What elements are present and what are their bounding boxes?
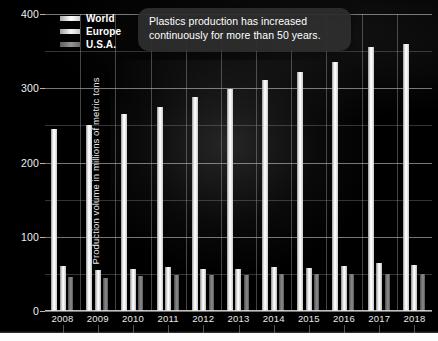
strip-tick [274,325,275,333]
y-tick-label: 100 [21,231,39,243]
bar-group [186,14,221,311]
bar-usa [349,274,354,311]
y-tick-mark [40,14,45,15]
x-tick-label: 2008 [52,313,74,324]
plot-area [45,14,432,311]
bar-europe [411,265,417,311]
chart-legend: WorldEuropeU.S.A. [60,13,121,50]
x-tick-label: 2018 [403,313,425,324]
bar-europe [95,270,101,311]
bar-group [80,14,115,311]
strip-tick [133,325,134,333]
bar-group [326,14,361,311]
bar-world [332,62,338,311]
bar-world [227,89,233,311]
x-tick-label: 2013 [228,313,250,324]
bar-europe [60,266,66,311]
bar-europe [165,267,171,311]
bar-world [403,44,409,311]
bar-usa [209,275,214,311]
bar-europe [271,267,277,311]
gridline-major [45,311,432,312]
legend-item-world[interactable]: World [60,13,121,24]
x-tick-label: 2014 [263,313,285,324]
annotation-text: Plastics production has increased contin… [149,15,341,43]
bar-europe [235,269,241,311]
bar-world [297,72,303,311]
bar-usa [68,277,73,311]
bar-usa [279,274,284,311]
y-tick-mark [40,311,45,312]
legend-label: Europe [86,26,121,37]
annotation-callout: Plastics production has increased contin… [138,8,351,51]
bar-group [362,14,397,311]
bar-europe [341,266,347,311]
legend-label: World [86,13,115,24]
bar-usa [420,274,425,311]
bar-world [157,107,163,311]
bar-usa [244,275,249,311]
x-axis-line [45,310,432,311]
y-tick-label: 200 [21,157,39,169]
x-tick-label: 2009 [87,313,109,324]
legend-item-europe[interactable]: Europe [60,26,121,37]
chart-canvas: Production volume in millions of metric … [0,0,438,341]
legend-swatch-europe-icon [60,29,80,34]
y-tick-label: 400 [21,8,39,20]
strip-tick [168,325,169,333]
legend-item-usa[interactable]: U.S.A. [60,39,121,50]
strip-tick [98,325,99,333]
x-tick-label: 2012 [192,313,214,324]
strip-tick [344,325,345,333]
strip-tick [239,325,240,333]
bar-group [291,14,326,311]
bar-world [368,47,374,311]
bar-usa [174,275,179,311]
legend-swatch-world-icon [60,16,80,21]
bar-world [192,97,198,311]
strip-tick [63,325,64,333]
bar-group [221,14,256,311]
legend-swatch-usa-icon [60,42,80,47]
bar-usa [138,276,143,311]
y-tick-label: 0 [33,305,39,317]
bar-group [115,14,150,311]
bar-group [397,14,432,311]
bar-usa [103,278,108,311]
x-tick-label: 2010 [122,313,144,324]
bar-world [121,114,127,311]
x-tick-label: 2017 [368,313,390,324]
x-tick-label: 2016 [333,313,355,324]
bar-usa [385,274,390,311]
bar-europe [200,269,206,311]
y-tick-label: 300 [21,82,39,94]
bar-group [256,14,291,311]
bottom-strip [0,333,438,341]
strip-tick [309,325,310,333]
bar-group [151,14,186,311]
bar-europe [376,263,382,311]
legend-label: U.S.A. [86,39,116,50]
bar-europe [306,268,312,311]
bar-usa [314,274,319,311]
strip-tick [203,325,204,333]
bar-world [262,80,268,311]
y-tick-mark [40,88,45,89]
bar-world [86,125,92,311]
y-tick-mark [40,163,45,164]
strip-tick [414,325,415,333]
bar-group [45,14,80,311]
y-tick-mark [40,237,45,238]
x-tick-label: 2015 [298,313,320,324]
strip-tick [379,325,380,333]
bar-europe [130,269,136,311]
x-tick-label: 2011 [158,313,179,324]
bar-world [51,129,57,311]
